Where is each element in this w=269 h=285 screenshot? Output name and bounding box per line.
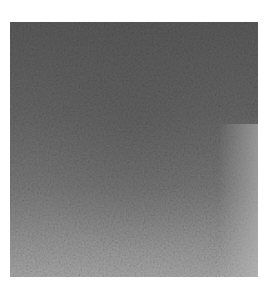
light-gradient bbox=[218, 124, 258, 277]
texture-photo bbox=[10, 22, 258, 277]
